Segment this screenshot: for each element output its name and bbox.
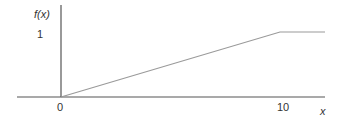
y-tick-label-1: 1	[37, 29, 43, 40]
x-tick-label-10: 10	[277, 102, 289, 113]
function-line	[61, 32, 325, 97]
x-axis-label: x	[320, 106, 326, 117]
y-axis-label: f(x)	[34, 9, 50, 20]
chart-canvas	[0, 0, 342, 123]
x-tick-label-0: 0	[57, 102, 63, 113]
